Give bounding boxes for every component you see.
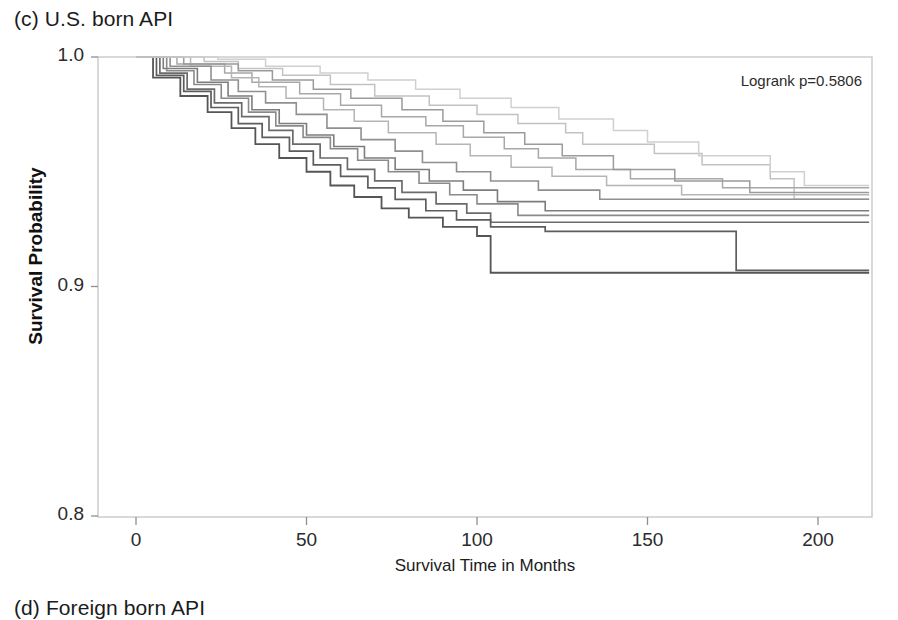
survival-curve-group-3 — [136, 57, 869, 195]
x-tick-label: 0 — [106, 529, 166, 551]
km-plot-svg — [0, 0, 898, 620]
plot-frame — [98, 57, 872, 517]
survival-curve-group-11 — [136, 57, 869, 186]
y-tick-label: 0.9 — [30, 274, 84, 296]
x-tick-label: 100 — [447, 529, 507, 551]
survival-curves — [136, 57, 869, 273]
survival-curve-group-8 — [136, 57, 869, 270]
x-tick-label: 200 — [788, 529, 848, 551]
x-tick-label: 50 — [277, 529, 337, 551]
survival-curve-group-6 — [136, 57, 869, 215]
next-panel-title: (d) Foreign born API — [14, 596, 205, 620]
survival-curve-group-2 — [136, 57, 869, 188]
x-tick-label: 150 — [618, 529, 678, 551]
survival-curve-group-7 — [136, 57, 869, 222]
y-tick-label: 1.0 — [30, 44, 84, 66]
figure-panel-c: (c) U.S. born API Survival Probability S… — [0, 0, 898, 620]
axis-ticks — [91, 57, 818, 525]
y-tick-label: 0.8 — [30, 503, 84, 525]
